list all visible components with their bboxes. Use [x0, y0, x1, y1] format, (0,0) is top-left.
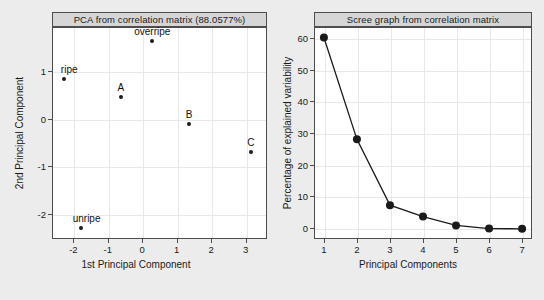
scatter-point: [62, 77, 66, 81]
y-tick-label: 0: [32, 113, 46, 124]
scree-marker: [419, 213, 427, 221]
gridline-horizontal: [53, 167, 266, 168]
y-tick: [48, 119, 52, 120]
gridline-vertical: [212, 28, 213, 238]
gridline-vertical: [247, 28, 248, 238]
y-tick-label: -2: [32, 209, 46, 220]
scree-marker: [518, 225, 526, 233]
scree-x-axis-label: Principal Components: [272, 259, 544, 270]
scatter-point: [187, 122, 191, 126]
scree-marker: [485, 225, 493, 233]
scree-marker: [386, 201, 394, 209]
scatter-point: [79, 226, 83, 230]
scatter-point-label: ripe: [61, 64, 78, 75]
scree-marker: [452, 221, 460, 229]
pca-scatter-panel: PCA from correlation matrix (88.0577%) -…: [0, 0, 272, 300]
pca-y-axis-label: 2nd Principal Component: [14, 27, 25, 239]
scatter-point-label: B: [186, 109, 193, 120]
pca-x-axis-label: 1st Principal Component: [0, 259, 272, 270]
scatter-point-label: C: [247, 137, 254, 148]
x-tick: [211, 239, 212, 243]
figure-root: PCA from correlation matrix (88.0577%) -…: [0, 0, 544, 300]
x-tick: [177, 239, 178, 243]
x-tick-label: -2: [69, 244, 77, 255]
gridline-vertical: [143, 28, 144, 238]
x-tick: [142, 239, 143, 243]
scatter-point-label: overripe: [134, 26, 170, 37]
x-tick: [73, 239, 74, 243]
scatter-point: [119, 95, 123, 99]
x-tick-label: 2: [209, 244, 214, 255]
gridline-horizontal: [53, 120, 266, 121]
gridline-vertical: [178, 28, 179, 238]
pca-gridlines: [53, 28, 266, 238]
y-tick: [48, 71, 52, 72]
gridline-vertical: [109, 28, 110, 238]
gridline-horizontal: [53, 72, 266, 73]
scatter-point-label: A: [118, 82, 125, 93]
x-tick: [108, 239, 109, 243]
y-tick: [48, 214, 52, 215]
x-tick-label: 0: [140, 244, 145, 255]
scatter-point: [249, 150, 253, 154]
x-tick-label: -1: [104, 244, 112, 255]
scree-marker: [353, 135, 361, 143]
y-tick-label: -1: [32, 161, 46, 172]
x-tick: [246, 239, 247, 243]
x-tick-label: 3: [243, 244, 248, 255]
x-tick-label: 1: [174, 244, 179, 255]
scree-y-axis-label: Percentage of explained variability: [282, 27, 293, 239]
y-tick: [48, 166, 52, 167]
scree-marker: [320, 33, 328, 41]
scree-line: [324, 37, 522, 228]
scatter-point: [150, 39, 154, 43]
pca-panel-title: PCA from correlation matrix (88.0577%): [52, 12, 267, 27]
scatter-point-label: unripe: [73, 213, 101, 224]
scree-panel: Scree graph from correlation matrix 1234…: [272, 0, 544, 300]
y-tick-label: 1: [32, 65, 46, 76]
scree-line-series: [272, 0, 544, 300]
pca-plot-area: [52, 27, 267, 239]
gridline-vertical: [74, 28, 75, 238]
